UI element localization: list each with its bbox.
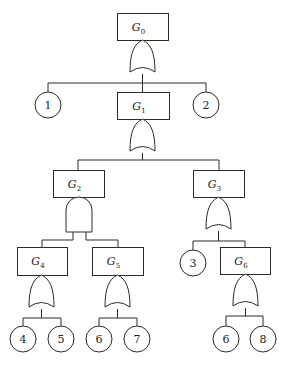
fault-tree-canvas: G0G1G2G3G4G5G6 123456768 xyxy=(0,0,287,366)
gate-g2: G2 xyxy=(54,171,105,233)
basic-event-3: 3 xyxy=(180,250,206,276)
basic-event-8: 8 xyxy=(250,326,276,352)
gate-g5: G5 xyxy=(93,248,144,308)
or-gate-icon xyxy=(105,275,130,307)
basic-event-label: 4 xyxy=(20,333,27,346)
or-gate-icon xyxy=(206,197,231,229)
basic-event-7: 7 xyxy=(124,326,150,352)
basic-event-2: 2 xyxy=(193,92,219,118)
basic-event-label: 1 xyxy=(45,99,52,112)
basic-event-label: 7 xyxy=(134,333,141,346)
gate-g1: G1 xyxy=(118,93,170,152)
basic-event-6: 6 xyxy=(213,326,239,352)
or-gate-icon xyxy=(233,274,258,306)
gate-g3: G3 xyxy=(194,171,245,230)
or-gate-icon xyxy=(130,40,155,72)
basic-event-6: 6 xyxy=(86,326,112,352)
basic-event-label: 3 xyxy=(190,257,197,270)
or-gate-icon xyxy=(130,119,155,151)
gate-g0: G0 xyxy=(118,14,169,73)
basic-event-label: 5 xyxy=(58,333,65,346)
basic-event-label: 6 xyxy=(96,333,103,346)
gate-g6: G6 xyxy=(221,248,271,307)
or-gate-icon xyxy=(29,275,54,307)
basic-event-label: 6 xyxy=(223,333,230,346)
basic-event-label: 8 xyxy=(260,333,267,346)
gate-g4: G4 xyxy=(18,248,68,308)
and-gate-icon xyxy=(66,197,92,232)
fault-tree-diagram: G0G1G2G3G4G5G6 123456768 xyxy=(0,0,287,366)
basic-event-1: 1 xyxy=(35,92,61,118)
basic-event-5: 5 xyxy=(48,326,74,352)
basic-event-4: 4 xyxy=(10,326,36,352)
basic-event-label: 2 xyxy=(203,99,210,112)
